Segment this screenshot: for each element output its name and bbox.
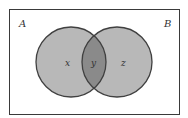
- venn-diagram: A B x y z: [0, 0, 188, 118]
- label-a: A: [18, 18, 26, 29]
- label-z: z: [120, 58, 126, 68]
- label-y: y: [90, 58, 97, 68]
- label-x: x: [65, 58, 70, 68]
- label-b: B: [163, 18, 171, 29]
